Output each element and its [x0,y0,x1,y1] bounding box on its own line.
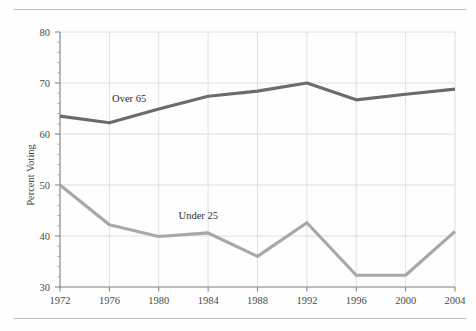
x-tick-label: 2004 [445,295,467,306]
chart-figure: 304050607080 197219761980198419881992199… [0,0,476,331]
tick-marks [55,32,455,292]
series-label-under-25: Under 25 [179,210,218,221]
y-tick-label: 30 [40,282,51,293]
y-tick-label: 50 [40,180,51,191]
series-label-over-65: Over 65 [112,93,146,104]
vertical-gridlines [109,32,455,287]
y-tick-label: 60 [40,129,51,140]
y-tick-label: 70 [40,78,51,89]
x-tick-label: 1976 [99,295,120,306]
line-chart-plot: 304050607080 197219761980198419881992199… [0,0,476,331]
y-axis-tick-labels: 304050607080 [40,27,51,293]
x-tick-label: 1996 [346,295,367,306]
y-tick-label: 80 [40,27,51,38]
x-tick-label: 1992 [296,295,317,306]
x-tick-label: 1980 [148,295,169,306]
series-inline-labels: Over 65Under 25 [112,93,218,220]
x-tick-label: 1984 [198,295,220,306]
x-tick-label: 1972 [50,295,71,306]
x-tick-label: 1988 [247,295,268,306]
y-axis-title: Percent Voting [25,143,36,205]
x-tick-label: 2000 [395,295,416,306]
y-tick-label: 40 [40,231,51,242]
x-axis-tick-labels: 197219761980198419881992199620002004 [50,295,467,306]
